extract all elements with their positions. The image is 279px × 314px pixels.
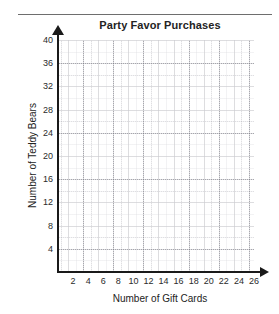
chart-screenshot: Party Favor Purchases 481216202428323640… [0, 0, 279, 314]
y-axis-title: Number of Teddy Bears [27, 76, 38, 236]
y-axis-tick-label: 36 [31, 59, 53, 68]
y-axis-tick-label: 4 [31, 245, 53, 254]
chart-title: Party Favor Purchases [57, 19, 263, 31]
top-divider-rule [18, 14, 272, 15]
x-axis-arrowhead-icon [260, 267, 269, 277]
x-axis-title: Number of Gift Cards [57, 293, 263, 304]
x-axis-line [57, 271, 262, 273]
plot-area-grid [58, 40, 254, 272]
y-axis-tick-label: 40 [31, 36, 53, 45]
y-axis-line [57, 33, 59, 272]
x-axis-tick-label: 26 [244, 277, 264, 286]
grid-dot-overlay [58, 40, 254, 272]
